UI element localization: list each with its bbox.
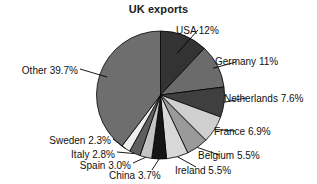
slice-label-other: Other 39.7%	[22, 65, 78, 76]
slice-label-belgium: Belgium 5.5%	[198, 150, 260, 161]
slice-label-usa: USA 12%	[176, 25, 219, 36]
pie-slices-group	[96, 31, 224, 159]
slice-label-ireland: Ireland 5.5%	[175, 165, 231, 176]
pie-chart-figure: UK exports USA 12% Germany 11% Netherlan…	[0, 0, 317, 184]
leader-line-spain	[133, 157, 146, 163]
slice-label-spain: Spain 3.0%	[80, 160, 131, 171]
pie-chart-canvas	[0, 0, 317, 184]
slice-label-germany: Germany 11%	[215, 56, 278, 67]
leader-line-china	[152, 159, 159, 170]
slice-label-italy: Italy 2.8%	[71, 149, 115, 160]
slice-label-france: France 6.9%	[214, 126, 271, 137]
slice-label-netherlands: Netherlands 7.6%	[224, 93, 304, 104]
slice-label-china: China 3.7%	[109, 170, 161, 181]
slice-label-sweden: Sweden 2.3%	[49, 135, 111, 146]
